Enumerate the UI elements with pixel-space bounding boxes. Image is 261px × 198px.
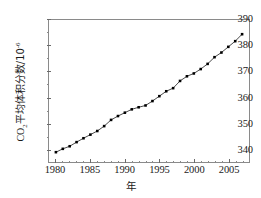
y-tick-minor [47,111,49,112]
x-tick-minor [180,161,181,163]
data-point-marker [199,68,202,71]
data-point-marker [206,63,209,66]
x-tick-minor [76,161,77,163]
x-tick-minor [166,161,167,163]
x-tick-minor [222,161,223,163]
x-tick-minor [201,161,202,163]
y-tick-mark [47,45,51,46]
y-tick-label: 350 [238,118,253,129]
y-tick-mark [47,71,51,72]
x-tick-minor [111,161,112,163]
y-tick-mark [47,150,51,151]
data-point-marker [82,137,85,140]
data-point-marker [165,90,168,93]
x-tick-minor [132,161,133,163]
data-point-marker [179,80,182,83]
x-tick-minor [62,161,63,163]
data-point-marker [241,33,244,36]
x-tick-minor [83,161,84,163]
x-tick-minor [187,161,188,163]
data-point-marker [130,108,133,111]
y-tick-label: 370 [238,66,253,77]
data-point-marker [151,100,154,103]
x-tick-minor [139,161,140,163]
data-series-line [49,20,249,162]
data-point-marker [62,148,65,151]
y-axis-title: CO2平均体积分数/10-6 [12,12,28,172]
y-axis-title-subscript: 2 [21,124,28,127]
data-point-marker [96,130,99,133]
x-tick-mark [55,159,56,163]
x-tick-mark [194,159,195,163]
data-point-marker [124,111,127,114]
x-tick-minor [146,161,147,163]
x-tick-label: 2000 [184,165,205,176]
data-point-marker [158,95,161,98]
x-tick-mark [125,159,126,163]
x-tick-minor [243,161,244,163]
y-tick-minor [47,137,49,138]
data-point-marker [144,104,147,107]
x-tick-minor [97,161,98,163]
x-tick-label: 1980 [45,165,66,176]
y-tick-label: 340 [238,145,253,156]
co2-concentration-chart: 年 CO2平均体积分数/10-6 34035036037038039019801… [0,0,261,198]
y-axis-title-co: CO [15,128,26,142]
x-tick-label: 1985 [79,165,100,176]
plot-area [48,19,250,163]
x-tick-minor [104,161,105,163]
x-tick-minor [208,161,209,163]
data-point-marker [89,133,92,136]
data-point-marker [220,51,223,54]
data-point-marker [213,56,216,59]
y-tick-minor [47,84,49,85]
y-tick-mark [47,19,51,20]
data-point-marker [55,151,58,154]
data-point-marker [172,87,175,90]
y-tick-mark [47,124,51,125]
y-tick-minor [47,58,49,59]
data-point-marker [103,125,106,128]
y-axis-title-exponent: -6 [14,42,21,48]
data-point-marker [137,106,140,109]
y-tick-label: 380 [238,40,253,51]
x-tick-minor [69,161,70,163]
data-point-marker [186,75,189,78]
y-axis-title-main: 平均体积分数/10 [15,48,26,124]
data-point-marker [193,72,196,75]
x-tick-mark [159,159,160,163]
data-point-marker [227,46,230,49]
y-tick-label: 360 [238,92,253,103]
series-line [56,34,242,152]
data-point-marker [110,119,113,122]
x-tick-minor [118,161,119,163]
x-tick-label: 1990 [114,165,135,176]
x-tick-mark [229,159,230,163]
y-tick-minor [47,32,49,33]
x-tick-mark [90,159,91,163]
x-tick-minor [152,161,153,163]
y-tick-label: 390 [238,14,253,25]
x-tick-minor [215,161,216,163]
x-tick-minor [236,161,237,163]
y-tick-mark [47,98,51,99]
data-point-marker [117,115,120,118]
x-axis-title: 年 [0,178,261,193]
data-point-marker [75,141,78,144]
data-point-marker [68,145,71,148]
x-tick-label: 2005 [219,165,240,176]
x-tick-label: 1995 [149,165,170,176]
x-tick-minor [173,161,174,163]
data-point-marker [234,40,237,43]
